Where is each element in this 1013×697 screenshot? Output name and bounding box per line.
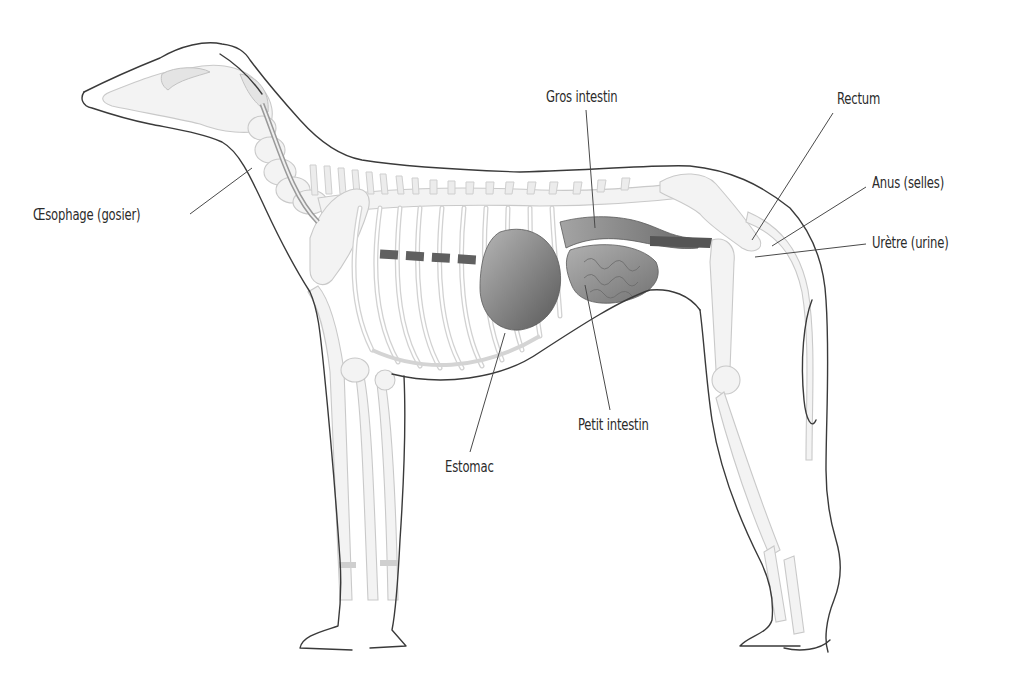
- skeleton: [103, 65, 813, 634]
- label-oesophagus: Œsophage (gosier): [33, 206, 140, 224]
- label-large-intestine: Gros intestin: [546, 88, 618, 106]
- leader-small-intestine: [585, 285, 610, 410]
- label-small-intestine: Petit intestin: [578, 416, 649, 434]
- dog-anatomy-diagram: Œsophage (gosier) Gros intestin Rectum A…: [0, 0, 1013, 697]
- hind-leg-bones: [710, 239, 804, 634]
- label-anus: Anus (selles): [872, 174, 944, 192]
- rectum-band: [650, 236, 712, 248]
- stomach: [480, 229, 561, 330]
- label-rectum: Rectum: [837, 90, 880, 108]
- small-intestine: [566, 245, 658, 304]
- leader-urethra: [755, 244, 866, 257]
- leader-rectum: [752, 113, 833, 240]
- label-urethra: Urètre (urine): [872, 234, 948, 252]
- leader-oesophagus: [190, 168, 252, 214]
- label-stomach: Estomac: [445, 458, 494, 476]
- leader-anus: [772, 187, 866, 246]
